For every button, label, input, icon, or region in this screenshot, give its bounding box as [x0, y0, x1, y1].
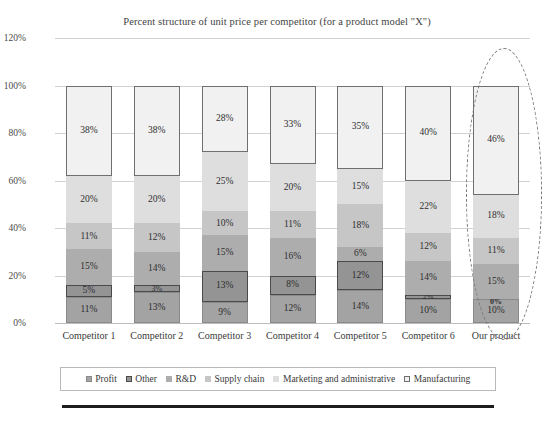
bar-segment[interactable]: 2% [405, 295, 451, 300]
bar-segment-value-label: 15% [80, 262, 97, 272]
bar-segment[interactable]: 12% [405, 233, 451, 262]
legend-swatch [86, 376, 92, 382]
bar-column[interactable]: 10%0%15%11%18%46% [473, 38, 519, 323]
bar-segment[interactable]: 40% [405, 86, 451, 181]
bar-segment[interactable]: 18% [473, 195, 519, 238]
bar-segment[interactable]: 15% [337, 169, 383, 205]
legend-label: R&D [175, 374, 196, 384]
legend-label: Marketing and administrative [283, 374, 395, 384]
bar-segment-value-label: 33% [284, 120, 301, 130]
y-tick-label: 20% [0, 271, 26, 281]
legend-swatch [126, 376, 132, 382]
y-tick-label: 100% [0, 81, 26, 91]
bar-segment-value-label: 40% [419, 128, 436, 138]
bar-segment[interactable]: 15% [202, 235, 248, 271]
bar-segment[interactable]: 9% [202, 302, 248, 323]
bar-segment[interactable]: 28% [202, 86, 248, 153]
legend-label: Other [135, 374, 157, 384]
bar-segment-value-label: 12% [419, 242, 436, 252]
bar-segment[interactable]: 12% [270, 295, 316, 324]
bar-segment-value-label: 28% [216, 114, 233, 124]
bar-segment[interactable]: 16% [270, 238, 316, 276]
bar-segment[interactable]: 13% [202, 271, 248, 302]
legend-item[interactable]: Profit [86, 374, 117, 384]
bar-segment[interactable]: 10% [202, 211, 248, 235]
y-tick-label: 40% [0, 223, 26, 233]
bar-segment-value-label: 11% [488, 246, 505, 256]
bar-segment[interactable]: 15% [473, 264, 519, 300]
bar-segment-value-label: 9% [218, 308, 231, 318]
bar-column[interactable]: 9%13%15%10%25%28% [202, 38, 248, 323]
bar-segment[interactable]: 14% [134, 252, 180, 285]
bar-segment-value-label: 20% [148, 195, 165, 205]
bar-segment-value-label: 16% [284, 252, 301, 262]
bar-segment[interactable]: 14% [405, 261, 451, 294]
bar-segment-value-label: 14% [419, 273, 436, 283]
legend-swatch [166, 376, 172, 382]
bar-segment-value-label: 10% [487, 306, 504, 316]
bar-segment-value-label: 5% [83, 286, 96, 296]
bar-column[interactable]: 10%2%14%12%22%40% [405, 38, 451, 323]
legend-item[interactable]: Marketing and administrative [273, 374, 395, 384]
bar-segment[interactable]: 11% [270, 211, 316, 237]
legend-item[interactable]: Other [126, 374, 157, 384]
bar-segment-value-label: 15% [216, 248, 233, 258]
bar-segment[interactable]: 35% [337, 86, 383, 169]
bar-segment-value-label: 13% [148, 303, 165, 313]
bar-segment[interactable]: 8% [270, 276, 316, 295]
y-tick-label: 0% [0, 318, 26, 328]
bar-segment[interactable]: 46% [473, 86, 519, 195]
chart-legend: ProfitOtherR&DSupply chainMarketing and … [60, 367, 496, 391]
bar-segment[interactable]: 11% [66, 223, 112, 249]
bar-segment[interactable]: 5% [66, 285, 112, 297]
bar-segment[interactable]: 33% [270, 86, 316, 164]
bar-segment[interactable]: 18% [337, 204, 383, 247]
bar-segment[interactable]: 38% [66, 86, 112, 176]
bar-segment-value-label: 35% [352, 122, 369, 132]
bar-segment[interactable]: 20% [66, 176, 112, 224]
bar-column[interactable]: 14%12%6%18%15%35% [337, 38, 383, 323]
bar-segment-value-label: 46% [487, 135, 504, 145]
bar-segment-value-label: 11% [80, 232, 97, 242]
bars-layer: 11%5%15%11%20%38%13%3%14%12%20%38%9%13%1… [55, 38, 530, 323]
bar-segment-value-label: 12% [352, 271, 369, 281]
chart-figure: Percent structure of unit price per comp… [0, 0, 554, 421]
bar-segment[interactable]: 25% [202, 152, 248, 211]
bar-segment[interactable]: 11% [66, 297, 112, 323]
bar-segment-value-label: 10% [419, 306, 436, 316]
bar-column[interactable]: 11%5%15%11%20%38% [66, 38, 112, 323]
bar-segment[interactable]: 22% [405, 181, 451, 233]
legend-swatch [404, 376, 410, 382]
axis-baseline [55, 323, 530, 324]
legend-item[interactable]: Supply chain [205, 374, 264, 384]
legend-swatch [273, 376, 279, 382]
bar-segment[interactable]: 10% [405, 299, 451, 323]
bar-segment[interactable]: 14% [337, 290, 383, 323]
bar-segment[interactable]: 20% [134, 176, 180, 224]
bar-segment[interactable]: 15% [66, 249, 112, 285]
bar-column[interactable]: 12%8%16%11%20%33% [270, 38, 316, 323]
bar-segment-value-label: 22% [419, 202, 436, 212]
legend-item[interactable]: R&D [166, 374, 196, 384]
bar-segment[interactable]: 11% [473, 238, 519, 264]
bar-segment-value-label: 18% [352, 221, 369, 231]
bar-segment-value-label: 12% [284, 304, 301, 314]
bar-segment[interactable]: 38% [134, 86, 180, 176]
bar-segment-value-label: 10% [216, 219, 233, 229]
bar-column[interactable]: 13%3%14%12%20%38% [134, 38, 180, 323]
bar-segment-value-label: 20% [80, 195, 97, 205]
legend-label: Profit [95, 374, 117, 384]
legend-label: Manufacturing [414, 374, 470, 384]
bar-segment[interactable]: 12% [134, 223, 180, 252]
bar-segment-value-label: 6% [354, 249, 367, 259]
bar-segment[interactable]: 20% [270, 164, 316, 212]
bar-segment[interactable]: 3% [134, 285, 180, 292]
bar-segment-value-label: 8% [286, 280, 299, 290]
bar-segment-value-label: 13% [216, 281, 233, 291]
bar-segment[interactable]: 6% [337, 247, 383, 261]
bar-segment[interactable]: 13% [134, 292, 180, 323]
bar-segment[interactable]: 12% [337, 261, 383, 290]
legend-item[interactable]: Manufacturing [404, 374, 470, 384]
bar-segment-value-label: 12% [148, 233, 165, 243]
bar-segment-value-label: 11% [80, 305, 97, 315]
